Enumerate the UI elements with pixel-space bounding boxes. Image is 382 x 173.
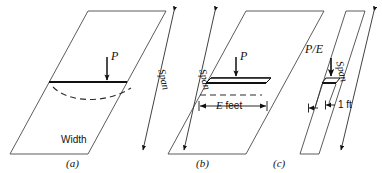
panel-b-effective-width-strip bbox=[206, 78, 271, 83]
panel-c-width-dimension bbox=[309, 84, 337, 113]
figure-container: P Width Span (a) P E feet Span (b) P/E 1… bbox=[0, 0, 382, 173]
panel-b-dimension-symbol: E bbox=[216, 99, 223, 111]
panel-a-width-label: Width bbox=[61, 134, 87, 145]
panel-a-deflection-curve bbox=[53, 87, 131, 100]
panel-c-load-label: P/E bbox=[305, 42, 323, 57]
panel-c-caption: (c) bbox=[273, 157, 285, 169]
panel-b-dimension-unit: feet bbox=[226, 100, 243, 111]
panel-b-load-label: P bbox=[240, 49, 247, 64]
panel-c-strip-width-label: 1 ft bbox=[338, 99, 352, 110]
panel-a-load-label: P bbox=[111, 49, 118, 64]
panel-b-caption: (b) bbox=[196, 157, 209, 169]
diagram-canvas bbox=[0, 0, 382, 173]
panel-b-width-dimension-label: E feet bbox=[216, 99, 242, 111]
panel-a-caption: (a) bbox=[66, 157, 79, 169]
